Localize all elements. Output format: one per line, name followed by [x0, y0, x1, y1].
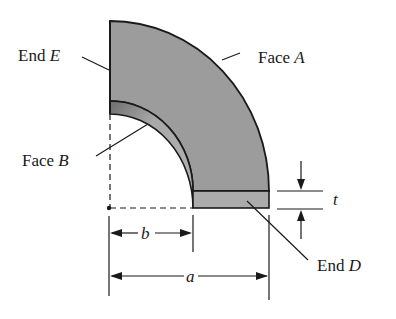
arrowhead-b-left [110, 229, 122, 237]
dimension-t-label: t [333, 190, 339, 209]
label-face-a: Face A [258, 48, 305, 67]
leader-face-a [222, 53, 240, 60]
leader-face-b [96, 124, 148, 156]
leader-end-e [82, 57, 109, 70]
arrowhead-t-bottom [297, 210, 305, 221]
arrowhead-a-left [110, 272, 122, 280]
dimension-a-label: a [186, 267, 195, 286]
dimension-b-label: b [141, 224, 150, 243]
label-end-d: End D [317, 256, 362, 275]
leader-end-d [247, 201, 308, 260]
label-face-b: Face B [22, 151, 69, 170]
label-end-e: End E [18, 46, 61, 65]
curved-bar-diagram: b a t End E Face A Face B End D [0, 0, 396, 319]
end-d-face [193, 191, 269, 208]
arrowhead-b-right [180, 229, 192, 237]
arrowhead-a-right [256, 272, 268, 280]
center-point [107, 206, 111, 210]
arrowhead-t-top [297, 179, 305, 190]
